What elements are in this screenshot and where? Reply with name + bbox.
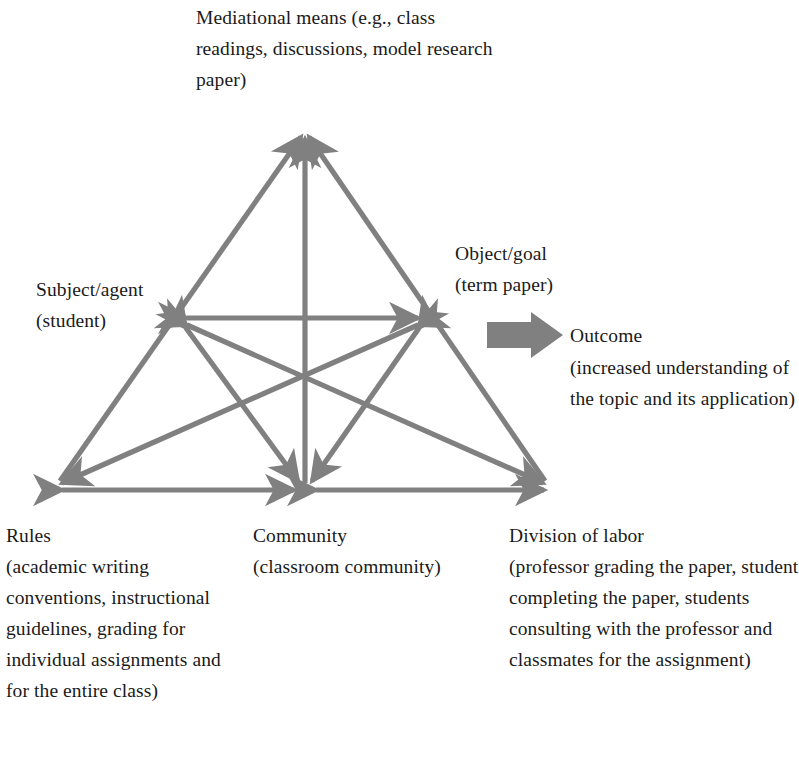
node-label-mediational-means: Mediational means (e.g., class readings,… bbox=[196, 2, 496, 95]
node-label-community: Community (classroom community) bbox=[253, 520, 453, 582]
node-label-rules: Rules (academic writing conventions, ins… bbox=[6, 520, 238, 706]
outcome-block-arrow-icon bbox=[487, 312, 563, 358]
node-label-outcome: Outcome bbox=[570, 320, 770, 351]
node-label-division-of-labor: Division of labor (professor grading the… bbox=[509, 520, 799, 675]
node-label-outcome-detail: (increased understanding of the topic an… bbox=[570, 352, 796, 414]
node-label-object: Object/goal (term paper) bbox=[455, 238, 635, 300]
node-label-subject: Subject/agent (student) bbox=[36, 274, 226, 336]
